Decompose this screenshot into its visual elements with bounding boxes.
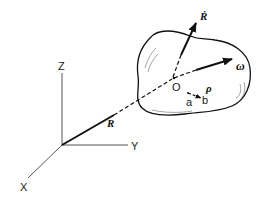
y-axis-label: Y (131, 140, 139, 152)
body-outline (138, 31, 251, 115)
velocity-vector-label: Ṙ (199, 10, 207, 22)
position-vector-label: R (106, 117, 114, 129)
x-axis-label: X (20, 181, 28, 193)
angular-velocity-vector-omega (174, 59, 232, 78)
shading-right-2 (236, 84, 241, 98)
relative-vector-label: ρ (205, 82, 212, 94)
velocity-vector-rdot (173, 23, 196, 77)
position-vector-r (62, 79, 172, 145)
rigid-body-diagram: Z Y X R Ṙ ω ρ O a b (0, 0, 260, 203)
point-a-label: a (186, 96, 193, 108)
angular-velocity-label: ω (236, 59, 245, 73)
point-b-label: b (202, 94, 208, 106)
body-origin-label: O (172, 81, 181, 93)
shading-bottom (152, 110, 192, 112)
z-axis-label: Z (58, 60, 65, 72)
body-origin-point (173, 77, 176, 80)
x-axis (28, 145, 62, 178)
rigid-body (138, 31, 251, 115)
